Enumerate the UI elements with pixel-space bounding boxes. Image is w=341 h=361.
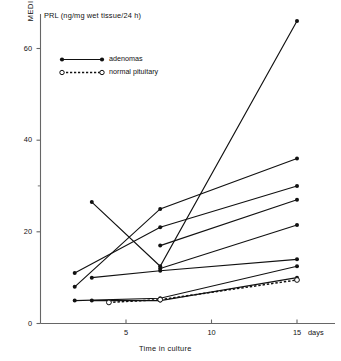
data-point-filled (295, 223, 299, 227)
data-point-open (158, 297, 163, 302)
y-tick-marks (37, 49, 41, 324)
data-point-filled (73, 285, 77, 289)
data-point-filled (295, 198, 299, 202)
x-axis-unit-label: days (308, 328, 324, 337)
series-line (92, 278, 297, 301)
legend-label-normal-pituitary: normal pituitary (109, 67, 158, 76)
series-4-adenomas (158, 223, 299, 271)
y-tick-label-0: 0 (14, 319, 32, 328)
data-point-filled (73, 271, 77, 275)
data-point-filled (295, 264, 299, 268)
data-point-filled (90, 276, 94, 280)
data-point-filled (158, 269, 162, 273)
data-point-open (107, 300, 112, 305)
data-point-filled (90, 200, 94, 204)
chart-title: PRL (ng/mg wet tissue/24 h) (44, 11, 141, 20)
data-point-filled (90, 299, 94, 303)
data-point-filled (295, 19, 299, 23)
legend-marker-dashed-icon (57, 66, 107, 79)
series-line (160, 225, 297, 269)
data-point-filled (158, 225, 162, 229)
legend-marker-solid-icon (57, 53, 107, 66)
data-point-filled (295, 257, 299, 261)
data-point-filled (73, 299, 77, 303)
series-line (75, 159, 297, 287)
data-point-filled (295, 157, 299, 161)
y-tick-label-60: 60 (14, 44, 32, 53)
x-tick-label-15: 15 (288, 328, 306, 337)
y-tick-label-20: 20 (14, 227, 32, 236)
data-point-filled (158, 244, 162, 248)
series-3-adenomas (158, 198, 299, 248)
data-point-filled (295, 184, 299, 188)
y-tick-label-40: 40 (14, 135, 32, 144)
series-line (92, 259, 297, 277)
series-2-adenomas (73, 184, 299, 275)
x-tick-label-5: 5 (117, 328, 135, 337)
x-tick-label-10: 10 (203, 328, 221, 337)
chart-figure: PRL (ng/mg wet tissue/24 h) Time in cult… (0, 0, 341, 361)
x-axis-title: Time in culture (139, 344, 192, 353)
plot-area (0, 0, 341, 361)
y-axis-title: MEDIUM (26, 0, 35, 35)
data-point-filled (158, 207, 162, 211)
series-5-adenomas (90, 257, 299, 279)
data-point-open (295, 278, 300, 283)
x-tick-marks (126, 320, 297, 324)
series-7-adenomas (90, 276, 299, 303)
legend-label-adenomas: adenomas (109, 54, 143, 63)
